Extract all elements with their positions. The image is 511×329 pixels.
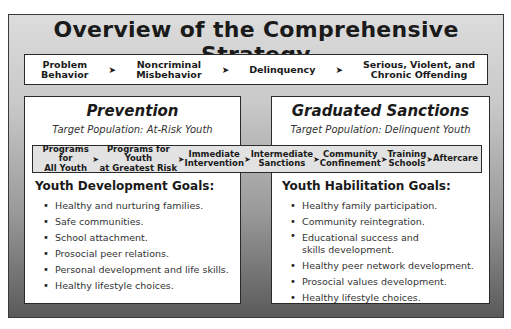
program-immediate-intervention: Immediate Intervention — [184, 150, 243, 169]
sanctions-target: Target Population: Delinquent Youth — [272, 124, 489, 135]
behavior-continuum: Problem Behavior ➤ Noncriminal Misbehavi… — [24, 54, 488, 85]
continuum-serious-offending: Serious, Violent, and Chronic Offending — [363, 60, 475, 80]
program-all-youth: Programs for All Youth — [39, 145, 92, 174]
program-community-confinement: Community Confinement — [320, 150, 381, 169]
list-item: Healthy family participation. — [290, 198, 474, 214]
arrow-right-icon: ➤ — [222, 65, 230, 75]
prevention-target: Target Population: At-Risk Youth — [25, 124, 240, 135]
graduated-sanctions-panel: Graduated Sanctions Target Population: D… — [271, 96, 490, 304]
program-intermediate-sanctions: Intermediate Sanctions — [251, 150, 313, 169]
prevention-title: Prevention — [25, 102, 240, 120]
program-aftercare: Aftercare — [433, 154, 478, 164]
program-greatest-risk: Programs for Youth at Greatest Risk — [99, 145, 178, 174]
prevention-panel: Prevention Target Population: At-Risk Yo… — [24, 96, 241, 304]
arrow-right-icon: ➤ — [92, 155, 99, 164]
list-item: Educational success and skills developme… — [290, 230, 474, 258]
list-item: Community reintegration. — [290, 214, 474, 230]
arrow-right-icon: ➤ — [244, 155, 251, 164]
list-item: Prosocial values development. — [290, 274, 474, 290]
list-item: School attachment. — [43, 230, 229, 246]
continuum-noncriminal-misbehavior: Noncriminal Misbehavior — [136, 60, 201, 80]
program-training-schools: Training Schools — [387, 150, 426, 169]
arrow-right-icon: ➤ — [178, 155, 185, 164]
youth-development-goals-title: Youth Development Goals: — [35, 179, 214, 193]
list-item: Personal development and life skills. — [43, 262, 229, 278]
arrow-right-icon: ➤ — [313, 155, 320, 164]
list-item: Safe communities. — [43, 214, 229, 230]
youth-development-goals-list: Healthy and nurturing families. Safe com… — [43, 198, 229, 294]
youth-habilitation-goals-title: Youth Habilitation Goals: — [282, 179, 451, 193]
program-continuum-band: Programs for All Youth ➤ Programs for Yo… — [32, 145, 482, 173]
list-item: Healthy lifestyle choices. — [290, 290, 474, 306]
arrow-right-icon: ➤ — [335, 65, 343, 75]
arrow-right-icon: ➤ — [381, 155, 388, 164]
youth-habilitation-goals-list: Healthy family participation. Community … — [290, 198, 474, 306]
arrow-right-icon: ➤ — [109, 65, 117, 75]
list-item: Prosocial peer relations. — [43, 246, 229, 262]
continuum-problem-behavior: Problem Behavior — [41, 60, 89, 80]
arrow-right-icon: ➤ — [426, 155, 433, 164]
continuum-delinquency: Delinquency — [249, 65, 315, 75]
list-item: Healthy and nurturing families. — [43, 198, 229, 214]
list-item: Healthy peer network development. — [290, 258, 474, 274]
sanctions-title: Graduated Sanctions — [272, 102, 489, 120]
list-item: Healthy lifestyle choices. — [43, 278, 229, 294]
